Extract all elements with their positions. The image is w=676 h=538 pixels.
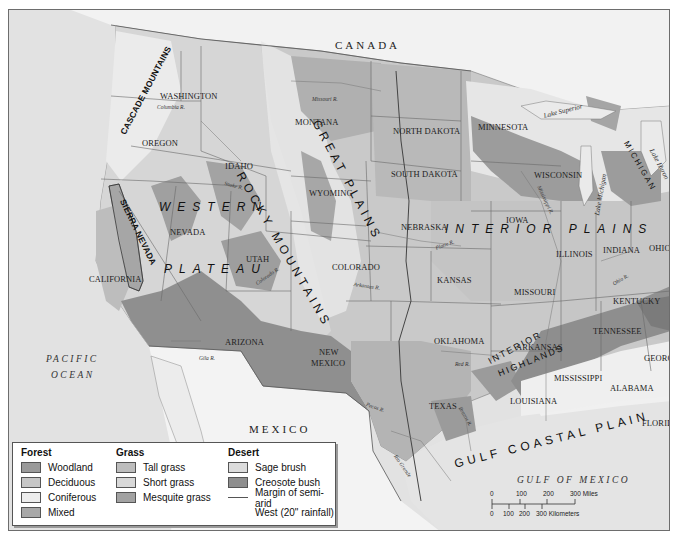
label-arkansas: ARKANSAS	[516, 343, 563, 352]
label-georgia: GEORGIA	[644, 354, 670, 363]
legend-label: Coniferous	[48, 492, 96, 503]
label-new-mexico-1: NEW	[319, 348, 339, 357]
scale-miles-100: 100	[516, 490, 527, 497]
swatch-creosote-bush	[228, 477, 248, 488]
label-colorado: COLORADO	[332, 263, 380, 272]
label-red-river: Red R.	[455, 362, 470, 368]
scale-km-0: 0	[490, 510, 494, 517]
label-canada: CANADA	[335, 40, 400, 51]
line-semi-arid-margin-icon	[228, 497, 248, 498]
label-arizona: ARIZONA	[225, 338, 264, 347]
label-montana: MONTANA	[295, 118, 338, 127]
legend-desert-title: Desert	[228, 447, 335, 458]
map-legend: Forest Woodland Deciduous Coniferous Mix…	[12, 442, 336, 526]
label-tennessee: TENNESSEE	[593, 327, 642, 336]
legend-item-short-grass: Short grass	[116, 475, 211, 490]
label-gila-river: Gila R.	[199, 356, 215, 362]
label-kansas: KANSAS	[437, 276, 472, 285]
label-pacific-ocean-2: OCEAN	[51, 371, 95, 381]
label-indiana: INDIANA	[603, 246, 640, 255]
label-missouri-river-mt: Missouri R.	[312, 97, 338, 103]
legend-label: Short grass	[143, 477, 194, 488]
swatch-coniferous	[21, 492, 41, 503]
label-california: CALIFORNIA	[89, 275, 141, 284]
scale-miles-0: 0	[490, 490, 494, 497]
legend-label: Margin of semi-arid	[255, 487, 335, 509]
label-mississippi: MISSISSIPPI	[554, 374, 602, 383]
label-utah: UTAH	[246, 255, 269, 264]
legend-item-woodland: Woodland	[21, 460, 96, 475]
label-minnesota: MINNESOTA	[478, 123, 528, 132]
label-iowa: IOWA	[506, 216, 529, 225]
legend-item-semi-arid-margin-2: West (20" rainfall)	[228, 505, 335, 520]
label-oklahoma: OKLAHOMA	[434, 337, 484, 346]
legend-forest-title: Forest	[21, 447, 96, 458]
legend-label: Mesquite grass	[143, 492, 211, 503]
label-louisiana: LOUISIANA	[510, 397, 557, 406]
label-kentucky: KENTUCKY	[613, 297, 661, 306]
label-pacific-ocean-1: PACIFIC	[46, 355, 99, 365]
swatch-mixed	[21, 507, 41, 518]
label-missouri: MISSOURI	[514, 288, 555, 297]
legend-forest-group: Forest Woodland Deciduous Coniferous Mix…	[21, 447, 96, 520]
label-new-mexico-2: MEXICO	[311, 359, 345, 368]
label-south-dakota: SOUTH DAKOTA	[391, 170, 458, 179]
scale-bar: 0 100 200 300 Miles 0 100 200 300 Kilome…	[484, 490, 644, 520]
legend-label: Woodland	[48, 462, 93, 473]
label-wisconsin: WISCONSIN	[534, 171, 582, 180]
label-plateau: PLATEAU	[164, 263, 267, 275]
scale-miles-300: 300 Miles	[570, 490, 598, 497]
swatch-deciduous	[21, 477, 41, 488]
legend-label: West (20" rainfall)	[255, 507, 334, 518]
legend-grass-group: Grass Tall grass Short grass Mesquite gr…	[116, 447, 211, 505]
swatch-tall-grass	[116, 462, 136, 473]
legend-item-mixed: Mixed	[21, 505, 96, 520]
label-idaho: IDAHO	[225, 162, 253, 171]
legend-label: Sage brush	[255, 462, 306, 473]
label-washington: WASHINGTON	[160, 92, 218, 101]
legend-item-sage-brush: Sage brush	[228, 460, 335, 475]
label-interior-plains: INTERIOR PLAINS	[445, 223, 653, 235]
label-columbia-river: Columbia R.	[157, 105, 185, 111]
swatch-mesquite-grass	[116, 492, 136, 503]
label-illinois: ILLINOIS	[556, 250, 593, 259]
legend-grass-title: Grass	[116, 447, 211, 458]
label-florida: FLORIDA	[642, 419, 670, 428]
legend-item-semi-arid-margin: Margin of semi-arid	[228, 490, 335, 505]
legend-item-tall-grass: Tall grass	[116, 460, 211, 475]
label-wyoming: WYOMING	[309, 189, 353, 198]
swatch-woodland	[21, 462, 41, 473]
legend-label: Deciduous	[48, 477, 95, 488]
label-western: WESTERN	[159, 201, 268, 213]
swatch-short-grass	[116, 477, 136, 488]
scale-km-300: 300 Kilometers	[536, 510, 579, 517]
legend-item-coniferous: Coniferous	[21, 490, 96, 505]
legend-label: Tall grass	[143, 462, 185, 473]
legend-item-deciduous: Deciduous	[21, 475, 96, 490]
scale-bar-ruler	[484, 498, 614, 510]
legend-desert-group: Desert Sage brush Creosote bush Margin o…	[228, 447, 335, 520]
legend-item-mesquite-grass: Mesquite grass	[116, 490, 211, 505]
scale-miles-200: 200	[543, 490, 554, 497]
label-gulf-of-mexico: GULF OF MEXICO	[517, 476, 630, 486]
label-texas: TEXAS	[429, 402, 457, 411]
label-mexico: MEXICO	[249, 424, 310, 435]
label-oregon: OREGON	[142, 139, 178, 148]
label-north-dakota: NORTH DAKOTA	[393, 127, 460, 136]
swatch-sage-brush	[228, 462, 248, 473]
label-alabama: ALABAMA	[610, 384, 654, 393]
label-ohio: OHIO	[649, 244, 670, 253]
label-nevada: NEVADA	[170, 228, 205, 237]
scale-km-200: 200	[519, 510, 530, 517]
scale-km-100: 100	[503, 510, 514, 517]
legend-label: Mixed	[48, 507, 75, 518]
label-nebraska: NEBRASKA	[401, 223, 448, 232]
